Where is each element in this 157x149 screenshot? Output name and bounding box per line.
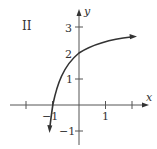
y-tick-label--1: −1 xyxy=(59,125,75,138)
y-axis-arrow-icon xyxy=(77,9,82,16)
panel-label: II xyxy=(22,19,32,33)
y-axis-label: y xyxy=(83,5,91,18)
curve-end-arrow-icon xyxy=(47,125,52,133)
curve-start-arrow-icon xyxy=(130,34,138,39)
y-tick-label-3: 3 xyxy=(65,22,72,35)
x-axis-label: x xyxy=(146,91,153,104)
curve xyxy=(50,37,131,126)
y-tick-label-2: 2 xyxy=(65,48,72,61)
x-tick-label-1: 1 xyxy=(102,110,109,123)
graph: II y x 3 2 1 −1 −1 1 xyxy=(0,0,157,149)
x-tick-label--1: −1 xyxy=(42,110,58,123)
y-tick-label-1: 1 xyxy=(66,73,73,86)
